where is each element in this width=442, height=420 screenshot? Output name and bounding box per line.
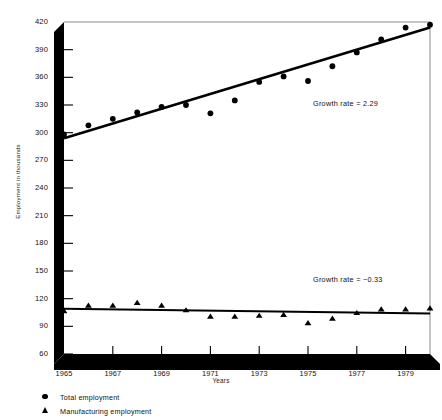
data-point-total-employment	[232, 97, 238, 103]
y-axis-tick-label: 300	[18, 128, 48, 137]
data-point-total-employment	[134, 109, 140, 115]
x-axis-shadow-slab	[54, 354, 440, 364]
x-axis-tick-label: 1967	[93, 369, 133, 378]
x-axis-tick-label: 1977	[337, 369, 377, 378]
x-axis-tick-label: 1969	[142, 369, 182, 378]
x-axis-tick-label: 1973	[239, 369, 279, 378]
y-axis-tick-label: 420	[18, 17, 48, 26]
employment-scatter-chart: Employment in thousands Years 6090120150…	[0, 0, 442, 420]
y-axis-tick-label: 150	[18, 266, 48, 275]
data-point-total-employment	[281, 74, 287, 80]
data-point-total-employment	[61, 132, 67, 138]
y-axis-tick-label: 330	[18, 100, 48, 109]
chart-plot-area	[0, 0, 442, 420]
data-point-total-employment	[256, 79, 262, 85]
legend-item-manufacturing-employment: Manufacturing employment	[30, 404, 152, 418]
y-axis-tick-label: 240	[18, 183, 48, 192]
data-point-total-employment	[86, 122, 92, 128]
data-point-total-employment	[330, 63, 336, 69]
growth-rate-annotation-total: Growth rate = 2.29	[313, 99, 378, 108]
data-point-total-employment	[208, 110, 214, 116]
circle-marker-icon	[30, 393, 60, 401]
legend-label-manufacturing-employment: Manufacturing employment	[60, 407, 152, 416]
y-axis-tick-label: 60	[18, 349, 48, 358]
y-axis-tick-label: 210	[18, 211, 48, 220]
chart-legend: Total employment Manufacturing employmen…	[30, 390, 152, 418]
y-axis-tick-label: 180	[18, 238, 48, 247]
growth-rate-annotation-manufacturing: Growth rate = −0.33	[313, 275, 383, 284]
data-point-total-employment	[305, 78, 311, 84]
data-point-total-employment	[378, 37, 384, 43]
plot-background	[64, 22, 430, 354]
data-point-total-employment	[183, 102, 189, 108]
data-point-total-employment	[110, 116, 116, 122]
data-point-total-employment	[403, 25, 409, 31]
x-axis-tick-label: 1979	[386, 369, 426, 378]
x-axis-title: Years	[0, 377, 442, 384]
data-point-total-employment	[427, 22, 433, 28]
y-axis-tick-label: 390	[18, 45, 48, 54]
legend-item-total-employment: Total employment	[30, 390, 152, 404]
y-axis-tick-label: 360	[18, 72, 48, 81]
data-point-total-employment	[159, 104, 165, 110]
y-axis-tick-label: 270	[18, 155, 48, 164]
y-axis-tick-label: 90	[18, 321, 48, 330]
x-axis-tick-label: 1971	[190, 369, 230, 378]
triangle-marker-icon	[30, 407, 60, 415]
x-axis-tick-label: 1965	[44, 369, 84, 378]
x-axis-tick-label: 1975	[288, 369, 328, 378]
y-axis-tick-label: 120	[18, 294, 48, 303]
data-point-total-employment	[354, 50, 360, 56]
legend-label-total-employment: Total employment	[60, 393, 120, 402]
